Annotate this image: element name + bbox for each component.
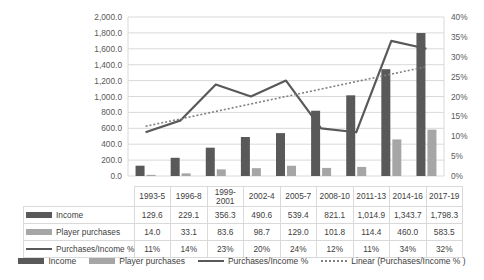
legend-label: Income xyxy=(48,256,76,266)
row-label: Purchases/Income % xyxy=(56,245,134,254)
cell: 101.8 xyxy=(317,224,354,241)
column-header: 1996-8 xyxy=(171,187,208,207)
y2-axis-tick-label: 10% xyxy=(451,131,468,141)
solid-line-icon xyxy=(198,260,224,262)
cell: 98.7 xyxy=(244,224,281,241)
plot-area: 0.0200.0400.0600.0800.01,000.01,200.01,4… xyxy=(0,0,484,186)
bar-income xyxy=(276,133,285,176)
bar-player-purchases xyxy=(427,130,436,176)
y-axis-tick-label: 200.0 xyxy=(101,155,122,165)
y-axis-tick-label: 1,400.0 xyxy=(94,60,122,70)
row-header-income: Income xyxy=(24,207,135,224)
column-header: 1993-5 xyxy=(134,187,171,207)
column-header: 2008-10 xyxy=(317,187,354,207)
cell: 490.6 xyxy=(244,207,281,224)
y2-axis-tick-label: 35% xyxy=(451,32,468,42)
row-header-player-purchases: Player purchases xyxy=(24,224,135,241)
legend-item-income: Income xyxy=(18,256,76,266)
income-swatch-icon xyxy=(18,258,44,264)
y2-axis-tick-label: 30% xyxy=(451,52,468,62)
cell: 583.5 xyxy=(426,224,463,241)
column-header: 2017-19 xyxy=(426,187,463,207)
column-header: 2014-16 xyxy=(390,187,427,207)
plot-svg: 0.0200.0400.0600.0800.01,000.01,200.01,4… xyxy=(0,0,484,186)
legend-label: Player purchases xyxy=(119,256,185,266)
cell: 129.0 xyxy=(280,224,317,241)
row-label: Income xyxy=(56,211,83,220)
legend-label: Linear (Purchases/Income % ) xyxy=(351,256,465,266)
cell: 129.6 xyxy=(134,207,171,224)
cell: 821.1 xyxy=(317,207,354,224)
bar-player-purchases xyxy=(182,173,191,176)
y2-axis-tick-label: 25% xyxy=(451,72,468,82)
y-axis-tick-label: 800.0 xyxy=(101,107,122,117)
table-corner-cell xyxy=(24,187,135,207)
legend-label: Purchases/Income % xyxy=(228,256,308,266)
y-axis-tick-label: 1,000.0 xyxy=(94,92,122,102)
bar-income xyxy=(241,137,250,176)
cell: 1,343.7 xyxy=(390,207,427,224)
y-axis-tick-label: 1,200.0 xyxy=(94,76,122,86)
bar-income xyxy=(346,95,355,176)
y2-axis-tick-label: 20% xyxy=(451,92,468,102)
cell: 356.3 xyxy=(207,207,244,224)
cell: 83.6 xyxy=(207,224,244,241)
bar-player-purchases xyxy=(392,139,401,176)
y-axis-tick-label: 400.0 xyxy=(101,139,122,149)
bar-player-purchases xyxy=(357,167,366,176)
y2-axis-tick-label: 15% xyxy=(451,111,468,121)
cell: 1,798.3 xyxy=(426,207,463,224)
dotted-line-icon xyxy=(321,260,347,262)
purchases-income-line-icon xyxy=(26,248,52,250)
y-axis-tick-label: 1,600.0 xyxy=(94,44,122,54)
bar-income xyxy=(136,166,145,176)
cell: 14.0 xyxy=(134,224,171,241)
player-purchases-swatch-icon xyxy=(26,229,52,235)
cell: 114.4 xyxy=(353,224,390,241)
y2-axis-tick-label: 40% xyxy=(451,12,468,22)
chart-legend: Income Player purchases Purchases/Income… xyxy=(0,256,484,266)
column-header: 2011-13 xyxy=(353,187,390,207)
bar-player-purchases xyxy=(217,169,226,176)
bar-income xyxy=(381,69,390,176)
table-row: Income 129.6 229.1 356.3 490.6 539.4 821… xyxy=(24,207,463,224)
player-purchases-swatch-icon xyxy=(89,258,115,264)
table-header-row: 1993-5 1996-8 1999-2001 2002-4 2005-7 20… xyxy=(24,187,463,207)
y-axis-tick-label: 1,800.0 xyxy=(94,28,122,38)
row-label: Player purchases xyxy=(56,228,120,237)
cell: 1,014.9 xyxy=(353,207,390,224)
bar-income xyxy=(206,148,215,176)
data-table: 1993-5 1996-8 1999-2001 2002-4 2005-7 20… xyxy=(23,186,463,258)
y-axis-tick-label: 0.0 xyxy=(110,171,122,181)
chart-root: 0.0200.0400.0600.0800.01,000.01,200.01,4… xyxy=(0,0,484,280)
y2-axis-tick-label: 5% xyxy=(451,151,464,161)
y2-axis-tick-label: 0% xyxy=(451,171,464,181)
column-header: 2005-7 xyxy=(280,187,317,207)
column-header: 1999-2001 xyxy=(207,187,244,207)
bar-player-purchases xyxy=(252,168,261,176)
cell: 539.4 xyxy=(280,207,317,224)
table-row: Player purchases 14.0 33.1 83.6 98.7 129… xyxy=(24,224,463,241)
bar-income xyxy=(171,158,180,176)
legend-item-linear-trendline: Linear (Purchases/Income % ) xyxy=(321,256,465,266)
bar-income xyxy=(416,33,425,176)
cell: 460.0 xyxy=(390,224,427,241)
bar-player-purchases xyxy=(287,166,296,176)
bar-player-purchases xyxy=(322,168,331,176)
legend-item-player-purchases: Player purchases xyxy=(89,256,185,266)
y-axis-tick-label: 2,000.0 xyxy=(94,12,122,22)
bar-player-purchases xyxy=(147,175,156,176)
column-header: 2002-4 xyxy=(244,187,281,207)
y-axis-tick-label: 600.0 xyxy=(101,123,122,133)
cell: 229.1 xyxy=(171,207,208,224)
income-swatch-icon xyxy=(26,212,52,218)
legend-item-purchases-income-pct: Purchases/Income % xyxy=(198,256,308,266)
cell: 33.1 xyxy=(171,224,208,241)
